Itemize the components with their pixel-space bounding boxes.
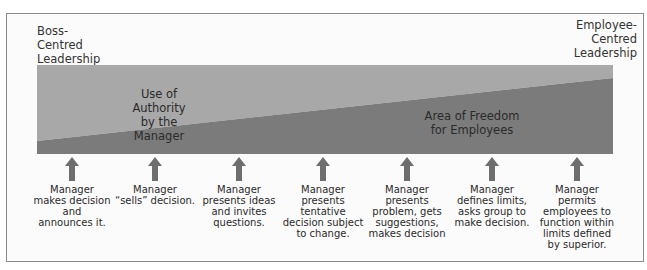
freedom-region-label: Area of Freedom for Employees [418, 109, 526, 137]
step-line: employees to [536, 206, 618, 217]
step-line: makes decision [31, 195, 113, 206]
step-line: Manager [451, 184, 533, 195]
boss-centred-label: Boss- Centred Leadership [37, 24, 100, 66]
employee-centred-label: Employee- Centred Leadership [574, 18, 637, 60]
step-3: Manager presents ideas and invites quest… [198, 157, 280, 228]
up-arrow-icon [65, 157, 79, 181]
employee-centred-line-1: Employee- [574, 18, 637, 32]
step-line: make decision. [451, 217, 533, 228]
step-6-description: Manager defines limits, asks group to ma… [451, 184, 533, 228]
step-line: permits [536, 195, 618, 206]
step-line: by superior. [536, 239, 618, 250]
up-arrow-icon [485, 157, 499, 181]
freedom-label-line-1: Area of Freedom [418, 109, 526, 123]
step-line: Manager [366, 184, 448, 195]
step-4: Manager presents tentative decision subj… [282, 157, 364, 239]
employee-centred-line-3: Leadership [574, 46, 637, 60]
step-line: defines limits, [451, 195, 533, 206]
step-line: Manager [282, 184, 364, 195]
step-line: announces it. [31, 217, 113, 228]
up-arrow-icon [316, 157, 330, 181]
step-line: Manager [198, 184, 280, 195]
step-line: suggestions, [366, 217, 448, 228]
step-7-description: Manager permits employees to function wi… [536, 184, 618, 250]
authority-region-label: Use of Authority by the Manager [114, 87, 204, 143]
boss-centred-line-2: Centred [37, 38, 100, 52]
step-7: Manager permits employees to function wi… [536, 157, 618, 250]
step-line: limits defined [536, 228, 618, 239]
step-line: to change. [282, 228, 364, 239]
boss-centred-line-3: Leadership [37, 52, 100, 66]
step-line: function within [536, 217, 618, 228]
step-2-description: Manager “sells” decision. [114, 184, 196, 206]
step-1-description: Manager makes decision and announces it. [31, 184, 113, 228]
step-6: Manager defines limits, asks group to ma… [451, 157, 533, 228]
up-arrow-icon [400, 157, 414, 181]
step-line: problem, gets [366, 206, 448, 217]
step-line: Manager [114, 184, 196, 195]
step-line: presents [282, 195, 364, 206]
step-line: Manager [31, 184, 113, 195]
step-line: Manager [536, 184, 618, 195]
freedom-label-line-2: for Employees [418, 123, 526, 137]
authority-label-line-2: by the Manager [114, 115, 204, 143]
step-5: Manager presents problem, gets suggestio… [366, 157, 448, 239]
step-line: presents [366, 195, 448, 206]
up-arrow-icon [570, 157, 584, 181]
up-arrow-icon [148, 157, 162, 181]
step-line: and [31, 206, 113, 217]
step-line: and invites [198, 206, 280, 217]
up-arrow-icon [232, 157, 246, 181]
step-4-description: Manager presents tentative decision subj… [282, 184, 364, 239]
step-5-description: Manager presents problem, gets suggestio… [366, 184, 448, 239]
step-1: Manager makes decision and announces it. [31, 157, 113, 228]
step-line: presents ideas [198, 195, 280, 206]
step-3-description: Manager presents ideas and invites quest… [198, 184, 280, 228]
step-line: “sells” decision. [114, 195, 196, 206]
step-line: asks group to [451, 206, 533, 217]
step-line: questions. [198, 217, 280, 228]
step-line: decision subject [282, 217, 364, 228]
step-line: tentative [282, 206, 364, 217]
boss-centred-line-1: Boss- [37, 24, 100, 38]
step-2: Manager “sells” decision. [114, 157, 196, 206]
employee-centred-line-2: Centred [574, 32, 637, 46]
authority-label-line-1: Use of Authority [114, 87, 204, 115]
step-line: makes decision [366, 228, 448, 239]
